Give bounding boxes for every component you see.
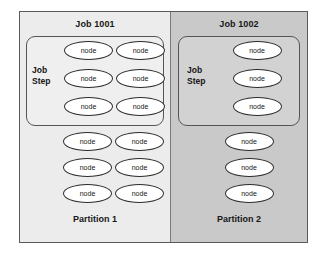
node-row: node [221, 97, 293, 116]
node-row: node [213, 158, 285, 177]
node: node [233, 41, 282, 60]
node-row: node [213, 132, 285, 151]
partition-label-1: Partition 1 [20, 214, 170, 225]
node-label: node [249, 102, 265, 110]
partition-2: Job 1002 Job Step node node node [171, 12, 307, 242]
node: node [115, 184, 164, 203]
job-step-label-1-line2: Step [32, 76, 50, 86]
node-row: node node [62, 69, 165, 88]
node-row: node [221, 41, 293, 60]
node-row: node node [62, 97, 165, 116]
node: node [225, 158, 274, 177]
node-label: node [249, 46, 265, 54]
node-label: node [80, 137, 96, 145]
diagram-root: Job 1001 Job Step node node node node [0, 0, 328, 261]
node-label: node [249, 74, 265, 82]
node-label: node [133, 74, 149, 82]
partition-label-2: Partition 2 [171, 214, 307, 225]
node-row: node node [61, 184, 164, 203]
node: node [116, 69, 165, 88]
node-row: node node [61, 132, 164, 151]
job-step-label-1: Job Step [32, 65, 66, 87]
node: node [64, 97, 113, 116]
node-row: node [213, 184, 285, 203]
node: node [63, 184, 112, 203]
node: node [115, 158, 164, 177]
node: node [64, 69, 113, 88]
node-label: node [133, 102, 149, 110]
free-node-grid-1: node node node node node node [61, 132, 164, 203]
node-row: node [221, 69, 293, 88]
node-label: node [241, 137, 257, 145]
job-step-node-grid-1: node node node node node node [62, 41, 165, 116]
node: node [63, 158, 112, 177]
node: node [115, 132, 164, 151]
job-step-label-1-line1: Job [32, 65, 47, 75]
node-label: node [241, 163, 257, 171]
job-step-box-1: Job Step node node node node node node [26, 36, 164, 126]
node: node [225, 132, 274, 151]
job-title-1001: Job 1001 [20, 12, 170, 33]
node: node [233, 69, 282, 88]
node-label: node [81, 74, 97, 82]
node-row: node node [62, 41, 165, 60]
node: node [64, 41, 113, 60]
node-label: node [133, 46, 149, 54]
job-step-node-grid-2: node node node [221, 41, 293, 116]
node: node [116, 41, 165, 60]
node-row: node node [61, 158, 164, 177]
node: node [116, 97, 165, 116]
job-step-label-2: Job Step [187, 65, 221, 87]
node: node [63, 132, 112, 151]
node: node [225, 184, 274, 203]
job-step-label-2-line1: Job [187, 65, 202, 75]
node-label: node [132, 137, 148, 145]
node-label: node [132, 189, 148, 197]
free-node-grid-2: node node node [213, 132, 285, 203]
node-label: node [81, 102, 97, 110]
job-step-label-2-line2: Step [187, 76, 205, 86]
node-label: node [241, 189, 257, 197]
partition-1: Job 1001 Job Step node node node node [20, 12, 171, 242]
cluster-frame: Job 1001 Job Step node node node node [19, 11, 308, 243]
job-title-1002: Job 1002 [171, 12, 307, 33]
node: node [233, 97, 282, 116]
node-label: node [132, 163, 148, 171]
node-label: node [80, 189, 96, 197]
job-step-box-2: Job Step node node node [178, 36, 300, 126]
node-label: node [80, 163, 96, 171]
node-label: node [81, 46, 97, 54]
